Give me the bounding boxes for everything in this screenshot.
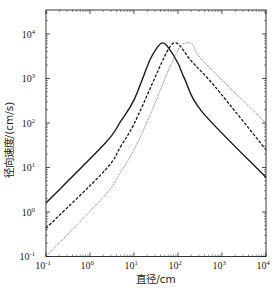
- x-tick-label: 102: [168, 259, 181, 271]
- series-solid-line: [46, 43, 266, 203]
- y-tick-label: 100: [22, 206, 35, 218]
- x-axis-tick-labels: 10-1100101102103104: [35, 259, 270, 271]
- minor-ticks: [46, 10, 266, 257]
- x-tick-label: 103: [212, 259, 225, 271]
- series-dashed-line: [46, 43, 266, 228]
- y-axis-tick-labels: 10-1100101102103104: [20, 28, 36, 263]
- x-tick-label: 104: [256, 259, 270, 271]
- y-axis-title: 径向速度/(cm/s): [3, 102, 15, 179]
- x-tick-label: 10-1: [35, 259, 50, 271]
- x-tick-label: 100: [80, 259, 93, 271]
- y-tick-label: 104: [22, 28, 36, 40]
- x-axis-title: 直径/cm: [136, 273, 176, 285]
- series-layer: [46, 43, 266, 257]
- chart-canvas: 10-1100101102103104 10-1100101102103104 …: [0, 0, 278, 293]
- x-tick-label: 101: [124, 259, 137, 271]
- y-tick-label: 101: [22, 161, 35, 173]
- y-tick-label: 10-1: [20, 250, 35, 262]
- major-ticks: [46, 10, 266, 257]
- y-tick-label: 103: [22, 72, 35, 84]
- y-tick-label: 102: [22, 117, 35, 129]
- plot-frame: [46, 10, 266, 257]
